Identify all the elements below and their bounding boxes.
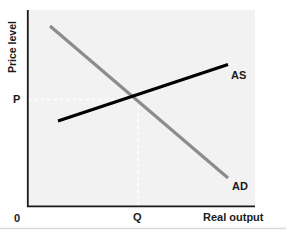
chart-canvas — [0, 0, 286, 234]
equilibrium-quantity-label: Q — [133, 212, 142, 223]
ad-as-chart-figure: Price level P 0 Q Real output AS AD — [0, 0, 286, 234]
ad-curve-label: AD — [232, 181, 248, 192]
x-axis-label: Real output — [203, 212, 264, 223]
plot-area-background — [27, 10, 255, 207]
as-curve-label: AS — [231, 70, 246, 81]
equilibrium-price-label: P — [13, 94, 20, 105]
y-axis-label: Price level — [7, 21, 18, 73]
origin-label: 0 — [14, 213, 20, 224]
